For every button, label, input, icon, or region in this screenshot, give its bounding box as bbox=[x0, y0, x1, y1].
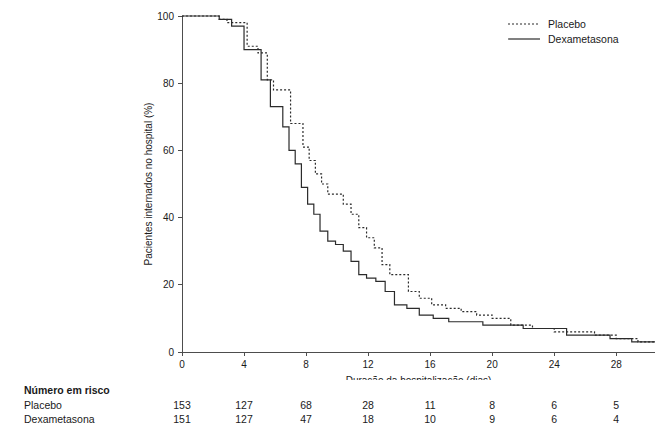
risk-count-cell: 153 bbox=[173, 398, 191, 412]
x-tick-label: 24 bbox=[549, 359, 561, 370]
x-tick-label: 8 bbox=[303, 359, 309, 370]
y-tick-label: 80 bbox=[163, 78, 175, 89]
risk-count-cell: 151 bbox=[173, 412, 191, 426]
x-tick-label: 4 bbox=[241, 359, 247, 370]
risk-count-cell: 6 bbox=[551, 412, 557, 426]
legend-label-placebo: Placebo bbox=[548, 18, 586, 30]
curve-placebo bbox=[182, 16, 655, 342]
chart-axes bbox=[182, 16, 655, 352]
risk-row-label: Dexametasona bbox=[24, 412, 95, 426]
x-tick-label: 0 bbox=[179, 359, 185, 370]
risk-table-title: Número em risco bbox=[24, 383, 110, 397]
x-tick-label: 16 bbox=[425, 359, 437, 370]
x-axis-title: Duração da hospitalização (dias) bbox=[346, 375, 492, 380]
chart-ticks: 0481216202428020406080100 bbox=[157, 11, 622, 371]
chart-legend: PlaceboDexametasona bbox=[508, 18, 619, 45]
risk-count-cell: 18 bbox=[362, 412, 374, 426]
survival-chart: 0481216202428020406080100 Duração da hos… bbox=[0, 0, 666, 380]
risk-count-cell: 6 bbox=[551, 398, 557, 412]
y-tick-label: 20 bbox=[163, 279, 175, 290]
chart-axis-labels: Duração da hospitalização (dias)Paciente… bbox=[143, 103, 491, 380]
y-axis-title: Pacientes internados no hospital (%) bbox=[143, 103, 154, 266]
curve-dexametasona bbox=[182, 16, 655, 342]
y-tick-label: 60 bbox=[163, 145, 175, 156]
risk-count-cell: 10 bbox=[424, 412, 436, 426]
risk-count-cell: 11 bbox=[425, 398, 436, 412]
kaplan-meier-figure: 0481216202428020406080100 Duração da hos… bbox=[0, 0, 666, 447]
x-tick-label: 28 bbox=[611, 359, 623, 370]
y-tick-label: 0 bbox=[168, 347, 174, 358]
x-tick-label: 12 bbox=[363, 359, 375, 370]
risk-count-cell: 4 bbox=[613, 412, 619, 426]
y-tick-label: 100 bbox=[157, 11, 174, 22]
y-tick-label: 40 bbox=[163, 212, 175, 223]
risk-count-cell: 127 bbox=[235, 398, 253, 412]
risk-count-cell: 28 bbox=[362, 398, 374, 412]
risk-count-cell: 127 bbox=[235, 412, 253, 426]
legend-label-dexametasona: Dexametasona bbox=[548, 33, 619, 45]
x-tick-label: 20 bbox=[487, 359, 499, 370]
risk-count-cell: 5 bbox=[613, 398, 619, 412]
risk-count-cell: 9 bbox=[489, 412, 495, 426]
risk-row-label: Placebo bbox=[24, 398, 62, 412]
risk-count-cell: 68 bbox=[300, 398, 312, 412]
chart-curves bbox=[182, 16, 655, 342]
risk-count-cell: 8 bbox=[489, 398, 495, 412]
risk-count-cell: 47 bbox=[300, 412, 312, 426]
